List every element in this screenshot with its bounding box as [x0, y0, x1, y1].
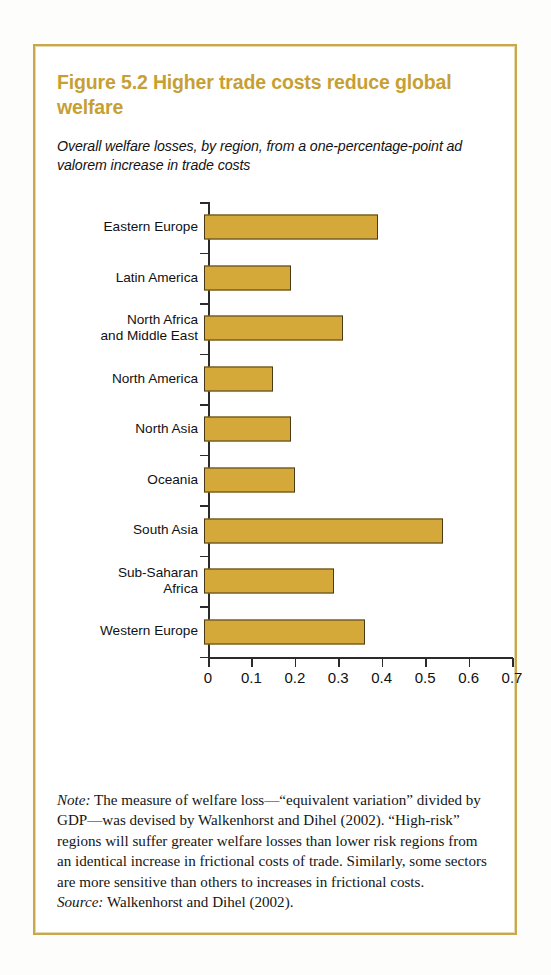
bar [204, 366, 273, 391]
bar [204, 518, 443, 543]
x-axis-tick-label: 0.5 [415, 669, 436, 686]
bar-row: Latin America [57, 253, 493, 304]
bar-track [203, 354, 493, 405]
bar-chart: Eastern EuropeLatin AmericaNorth Africa … [57, 192, 493, 670]
figure-title: Figure 5.2 Higher trade costs reduce glo… [57, 70, 477, 120]
bar [204, 265, 291, 290]
x-axis-tick [469, 658, 471, 667]
bar-row: North Africa and Middle East [57, 303, 493, 354]
bar-row: North Asia [57, 404, 493, 455]
x-axis-tick [208, 658, 210, 667]
bar-row: Oceania [57, 455, 493, 506]
y-axis-tick [200, 455, 209, 457]
y-axis-tick [200, 202, 209, 204]
x-axis-tick-label: 0.2 [284, 669, 305, 686]
x-axis-tick [338, 658, 340, 667]
y-axis-tick [200, 354, 209, 356]
bar-category-label: Eastern Europe [57, 219, 203, 236]
bar-category-label: Latin America [57, 270, 203, 287]
y-axis-tick [200, 606, 209, 608]
figure-note: Note: The measure of welfare loss—“equiv… [57, 790, 495, 912]
x-axis-ticks [208, 658, 513, 668]
x-axis-tick [382, 658, 384, 667]
x-axis-tick [512, 658, 514, 667]
x-axis-tick-label: 0.7 [502, 669, 523, 686]
bar-category-label: North America [57, 371, 203, 388]
bar-track [203, 505, 493, 556]
x-axis-tick-labels: 00.10.20.30.40.50.60.7 [208, 669, 513, 689]
x-axis-tick [295, 658, 297, 667]
x-axis-tick-label: 0 [204, 669, 212, 686]
bar-track [203, 455, 493, 506]
bar [204, 619, 365, 644]
bar [204, 417, 291, 442]
bar-track [203, 202, 493, 253]
x-axis-tick [251, 658, 253, 667]
y-axis-tick [200, 556, 209, 558]
bar-category-label: Western Europe [57, 623, 203, 640]
bar-category-label: Oceania [57, 472, 203, 489]
y-axis-tick [200, 303, 209, 305]
bar-row: North America [57, 354, 493, 405]
bar-track [203, 404, 493, 455]
x-axis-tick-label: 0.3 [328, 669, 349, 686]
note-label: Note: [57, 792, 91, 808]
figure-subtitle: Overall welfare losses, by region, from … [57, 137, 469, 175]
y-axis-tick [200, 404, 209, 406]
bar-track [203, 556, 493, 607]
y-axis-tick [200, 505, 209, 507]
bar-category-label: Sub-Saharan Africa [57, 565, 203, 598]
source-label: Source: [57, 894, 103, 910]
x-axis-tick-label: 0.4 [371, 669, 392, 686]
bar [204, 215, 378, 240]
x-axis-tick [425, 658, 427, 667]
bar [204, 468, 295, 493]
bar [204, 316, 343, 341]
bar-rows: Eastern EuropeLatin AmericaNorth Africa … [57, 202, 493, 657]
bar-row: Sub-Saharan Africa [57, 556, 493, 607]
bar-category-label: North Africa and Middle East [57, 312, 203, 345]
bar-category-label: South Asia [57, 522, 203, 539]
x-axis-tick-label: 0.6 [458, 669, 479, 686]
bar-row: South Asia [57, 505, 493, 556]
bar-track [203, 606, 493, 657]
bar-track [203, 253, 493, 304]
note-text: The measure of welfare loss—“equivalent … [57, 792, 487, 890]
bar [204, 569, 334, 594]
bar-track [203, 303, 493, 354]
y-axis-tick [200, 253, 209, 255]
bar-category-label: North Asia [57, 421, 203, 438]
bar-row: Western Europe [57, 606, 493, 657]
source-text: Walkenhorst and Dihel (2002). [103, 894, 293, 910]
figure-content: Figure 5.2 Higher trade costs reduce glo… [33, 44, 517, 935]
bar-row: Eastern Europe [57, 202, 493, 253]
figure-page: Figure 5.2 Higher trade costs reduce glo… [0, 0, 551, 975]
x-axis-tick-label: 0.1 [241, 669, 262, 686]
